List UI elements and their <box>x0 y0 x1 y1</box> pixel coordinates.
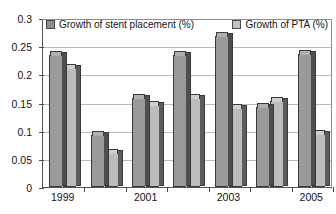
y-axis: 00.050.10.150.20.250.3 <box>2 0 32 214</box>
x-tick-label: 2001 <box>134 191 157 203</box>
x-axis: 1999200120032005 <box>42 191 332 211</box>
plot-frame-right <box>331 19 332 189</box>
bar <box>298 54 311 188</box>
y-tick-label: 0.2 <box>2 70 32 80</box>
bar-group <box>43 19 84 187</box>
bar-front-face <box>133 99 145 186</box>
bar-group <box>126 19 167 187</box>
bar-top-face <box>174 51 186 56</box>
bar <box>215 36 228 187</box>
bar-side-face <box>76 65 81 186</box>
bar-front-face <box>257 108 269 186</box>
y-tick-label: 0.25 <box>2 42 32 52</box>
bar-side-face <box>228 33 233 186</box>
bar-top-face <box>257 103 269 108</box>
bar-group <box>292 19 333 187</box>
bar-group <box>250 19 291 187</box>
bar <box>173 55 186 187</box>
bar-top-face <box>133 94 145 99</box>
bar-side-face <box>159 102 164 186</box>
x-tick-label: 1999 <box>51 191 74 203</box>
bar-side-face <box>62 52 67 186</box>
bar-top-face <box>216 32 228 37</box>
chart-legend: Growth of stent placement (%)Growth of P… <box>46 17 328 32</box>
bar-side-face <box>242 105 247 186</box>
legend-swatch-icon <box>46 20 55 29</box>
y-tick-label: 0.15 <box>2 99 32 109</box>
bar-top-face <box>271 97 283 102</box>
bar-top-face <box>92 131 104 136</box>
y-tick-label: 0.05 <box>2 155 32 165</box>
bar-side-face <box>269 104 274 186</box>
x-tick-label: 2003 <box>217 191 240 203</box>
legend-swatch-icon <box>232 20 241 29</box>
bar-front-face <box>299 55 311 187</box>
bar <box>256 107 269 187</box>
y-tick-label: 0 <box>2 183 32 193</box>
bar-front-face <box>174 56 186 186</box>
bar-chart: 00.050.10.150.20.250.3 1999200120032005 … <box>0 0 336 214</box>
y-tick-mark <box>39 188 44 189</box>
x-tick-mark <box>333 187 334 192</box>
bar-side-face <box>104 132 109 186</box>
bar-group <box>209 19 250 187</box>
bar-group <box>167 19 208 187</box>
bar <box>91 135 104 187</box>
bar-side-face <box>145 95 150 186</box>
legend-label: Growth of PTA (%) <box>245 19 328 30</box>
y-tick-label: 0.3 <box>2 14 32 24</box>
bar-side-face <box>283 98 288 186</box>
bar-side-face <box>311 51 316 187</box>
bar-side-face <box>200 95 205 186</box>
bar-front-face <box>216 37 228 186</box>
bar-top-face <box>50 51 62 56</box>
bar-group <box>84 19 125 187</box>
legend-item: Growth of PTA (%) <box>232 19 328 30</box>
bar-side-face <box>325 131 330 186</box>
bar <box>132 98 145 187</box>
bar <box>49 55 62 187</box>
bar-side-face <box>186 52 191 186</box>
bar-front-face <box>92 136 104 186</box>
legend-label: Growth of stent placement (%) <box>59 19 194 30</box>
legend-item: Growth of stent placement (%) <box>46 19 194 30</box>
x-tick-label: 2005 <box>300 191 323 203</box>
bar-side-face <box>118 150 123 186</box>
plot-area <box>42 19 332 188</box>
bar-front-face <box>50 56 62 186</box>
bar-top-face <box>299 50 311 55</box>
y-tick-label: 0.1 <box>2 127 32 137</box>
